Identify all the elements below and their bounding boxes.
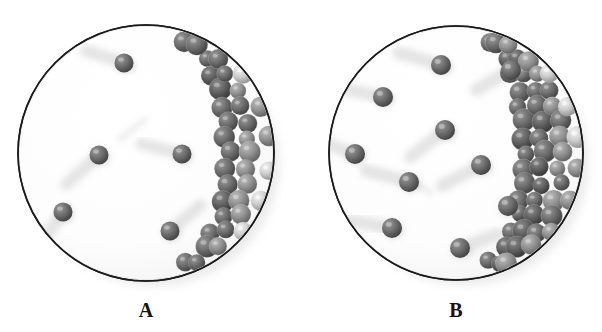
cluster-particle <box>239 141 261 163</box>
cluster-particle-highlight <box>517 224 523 229</box>
cluster-particle-highlight <box>512 53 517 57</box>
cluster-particle-highlight <box>216 102 222 106</box>
cluster-particle-highlight <box>523 56 529 60</box>
particle-highlight <box>377 91 383 96</box>
cluster-particle-highlight <box>510 241 516 245</box>
cluster-particle-highlight <box>517 164 523 168</box>
cluster-particle-highlight <box>202 54 206 57</box>
cluster-particle-highlight <box>219 163 225 167</box>
cluster-particle-highlight <box>240 164 245 168</box>
particle-body <box>435 120 455 140</box>
cluster-particle-highlight <box>490 37 496 41</box>
cluster-particle-highlight <box>235 209 240 213</box>
cluster-particle-highlight <box>547 195 553 199</box>
cluster-particle-highlight <box>192 258 197 261</box>
cluster-particle-highlight <box>547 101 552 105</box>
particle-body <box>382 218 402 238</box>
cluster-particle <box>217 221 235 239</box>
cluster-particle-highlight <box>223 116 228 120</box>
cluster-particle-highlight <box>537 116 543 120</box>
cluster-particle-highlight <box>191 38 197 42</box>
particle-highlight <box>164 225 170 229</box>
cluster-particle <box>530 157 549 176</box>
particle-body <box>345 144 365 164</box>
cluster-particle <box>553 142 573 162</box>
cluster-particle <box>549 160 565 176</box>
particle-body <box>450 238 470 258</box>
particle-highlight <box>176 148 182 152</box>
cluster-particle-highlight <box>244 146 250 150</box>
cluster-particle-highlight <box>555 115 561 119</box>
cluster-particle-highlight <box>531 100 537 104</box>
cluster-particle-highlight <box>545 210 551 214</box>
cluster-particle-highlight <box>218 131 224 135</box>
figure-canvas <box>0 0 602 332</box>
cluster-particle-highlight <box>525 239 530 243</box>
particle-body <box>373 87 393 107</box>
panel-b <box>317 26 588 285</box>
cluster-particle <box>238 114 257 133</box>
particle-body <box>54 203 73 222</box>
particle-highlight <box>439 124 445 129</box>
particle-highlight <box>386 222 392 227</box>
particle-body <box>471 155 491 175</box>
cluster-particle-highlight <box>222 179 228 183</box>
particle-body <box>90 146 109 165</box>
cluster-particle-highlight <box>263 130 269 134</box>
cluster-particle-highlight <box>531 228 536 232</box>
cluster-particle-highlight <box>528 209 534 213</box>
cluster-particle-highlight <box>533 69 537 72</box>
cluster-particle-highlight <box>516 133 522 137</box>
cluster-particle-highlight <box>242 179 247 183</box>
panel-a-label: A <box>126 300 166 320</box>
cluster-particle-highlight <box>213 54 218 58</box>
cluster-particle-highlight <box>544 85 549 89</box>
particle-highlight <box>502 200 508 205</box>
cluster-particle-highlight <box>572 163 577 167</box>
cluster-particle-highlight <box>536 181 541 184</box>
cluster-particle-highlight <box>255 101 261 105</box>
cluster-particle-highlight <box>221 225 226 229</box>
particle-highlight <box>118 57 124 61</box>
cluster-particle-highlight <box>513 102 518 105</box>
cluster-particle <box>553 174 569 190</box>
cluster-particle-highlight <box>205 70 210 74</box>
cluster-particle <box>217 66 234 83</box>
cluster-particle-highlight <box>564 195 569 199</box>
cluster-particle-highlight <box>546 227 551 231</box>
cluster-particle-highlight <box>553 164 557 167</box>
cluster-particle-highlight <box>242 135 246 138</box>
cluster-particle-highlight <box>216 196 222 200</box>
cluster-particle-highlight <box>503 40 508 44</box>
particle-body <box>399 172 419 192</box>
cluster-particle-highlight <box>571 131 577 135</box>
cluster-particle-highlight <box>519 177 525 181</box>
cluster-particle-highlight <box>521 150 526 153</box>
particle-body <box>115 54 134 73</box>
cluster-particle-highlight <box>235 101 240 105</box>
particle-highlight <box>349 148 355 153</box>
cluster-particle-highlight <box>214 83 220 87</box>
cluster-particle-highlight <box>233 195 239 199</box>
particle-highlight <box>93 149 99 153</box>
cluster-particle-highlight <box>255 195 260 199</box>
cluster-particle-highlight <box>539 145 545 149</box>
particle-highlight <box>475 159 481 164</box>
cluster-particle-highlight <box>531 86 536 90</box>
cluster-particle-highlight <box>544 68 549 72</box>
particle-body <box>173 145 192 164</box>
cluster-particle <box>540 81 559 100</box>
diagram-svg <box>0 0 602 332</box>
cluster-particle-highlight <box>534 133 539 137</box>
cluster-particle-highlight <box>242 118 247 122</box>
cluster-particle-highlight <box>213 241 218 245</box>
panel-b-label: B <box>436 300 476 320</box>
panel-a <box>18 25 279 286</box>
particle-highlight <box>435 59 441 64</box>
cluster-particle-highlight <box>178 36 184 40</box>
particle-body <box>498 196 518 216</box>
cluster-particle-highlight <box>225 146 230 150</box>
cluster-particle <box>231 96 250 115</box>
particle-body <box>161 222 180 241</box>
cluster-particle-highlight <box>483 255 488 258</box>
